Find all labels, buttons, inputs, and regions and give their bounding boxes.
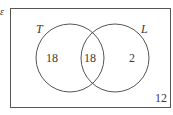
intersection-count: 18: [84, 52, 96, 64]
t-only-count: 18: [46, 52, 58, 64]
l-only-count: 2: [129, 52, 135, 64]
set-l-label: L: [141, 23, 148, 35]
outside-count: 12: [155, 92, 167, 104]
set-t-label: T: [36, 23, 43, 35]
universal-set-label: ε: [0, 6, 4, 18]
